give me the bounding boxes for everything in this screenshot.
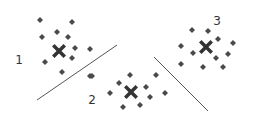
- data-point-diamond-icon: [69, 19, 75, 25]
- data-point-diamond-icon: [213, 55, 219, 61]
- data-point-diamond-icon: [72, 45, 78, 51]
- data-point-diamond-icon: [69, 55, 75, 61]
- cluster-1: [37, 17, 93, 79]
- data-point-diamond-icon: [37, 17, 43, 23]
- cluster-label-2: 2: [88, 94, 96, 106]
- data-point-diamond-icon: [178, 43, 184, 49]
- data-point-diamond-icon: [190, 50, 196, 56]
- data-point-diamond-icon: [54, 29, 60, 35]
- cluster-label-1: 1: [15, 54, 23, 66]
- data-point-diamond-icon: [120, 104, 126, 110]
- data-point-diamond-icon: [153, 72, 159, 78]
- boundary-line-1: [37, 45, 117, 100]
- data-point-diamond-icon: [116, 80, 122, 86]
- data-point-diamond-icon: [137, 102, 143, 108]
- data-point-diamond-icon: [189, 27, 195, 33]
- cluster-2: [89, 72, 168, 110]
- data-point-diamond-icon: [65, 34, 71, 40]
- centroid-x-icon: [202, 43, 211, 52]
- data-point-diamond-icon: [162, 90, 168, 96]
- data-point-diamond-icon: [39, 34, 45, 40]
- centroid-x-icon: [127, 88, 136, 97]
- data-point-diamond-icon: [220, 64, 226, 70]
- data-point-diamond-icon: [107, 90, 113, 96]
- data-point-diamond-icon: [59, 69, 65, 75]
- data-point-diamond-icon: [225, 51, 231, 57]
- data-point-diamond-icon: [143, 84, 149, 90]
- data-point-diamond-icon: [147, 94, 153, 100]
- centroid-x-icon: [55, 47, 64, 56]
- cluster-label-3: 3: [213, 15, 221, 27]
- data-point-diamond-icon: [127, 72, 133, 78]
- data-point-diamond-icon: [42, 59, 48, 65]
- data-point-diamond-icon: [230, 40, 236, 46]
- data-point-diamond-icon: [178, 61, 184, 67]
- data-point-diamond-icon: [87, 46, 93, 52]
- data-point-diamond-icon: [205, 28, 211, 34]
- data-point-diamond-icon: [200, 64, 206, 70]
- data-point-diamond-icon: [215, 36, 221, 42]
- cluster-3: [178, 27, 236, 70]
